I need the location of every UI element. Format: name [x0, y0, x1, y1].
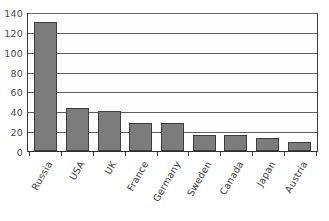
y-axis-tick-label: 20 [11, 128, 24, 137]
x-axis-tick [125, 152, 126, 156]
bar-slot [220, 13, 252, 151]
bar-slot [93, 13, 125, 151]
x-axis-label-russia: Russia [29, 159, 54, 192]
y-axis-tick-label: 0 [17, 148, 23, 157]
x-axis-tick [157, 152, 158, 156]
y-axis: 020406080100120140 [0, 0, 26, 221]
bar-canada [224, 135, 247, 151]
x-axis-label-sweden: Sweden [185, 159, 214, 198]
bar-slot [30, 13, 62, 151]
x-label-slot: Japan [252, 157, 284, 221]
bar-slot [283, 13, 315, 151]
x-axis-tick [316, 152, 317, 156]
x-axis-tick [252, 152, 253, 156]
plot-area [27, 13, 318, 152]
bar-series [28, 13, 317, 151]
x-axis-tick [61, 152, 62, 156]
x-axis-tick [188, 152, 189, 156]
bar-slot [125, 13, 157, 151]
x-axis-label-france: France [124, 159, 150, 193]
x-axis-tick [93, 152, 94, 156]
x-label-slot: Canada [220, 157, 252, 221]
x-label-slot: Sweden [188, 157, 220, 221]
x-axis-label-austria: Austria [283, 159, 310, 195]
x-label-slot: Russia [29, 157, 61, 221]
x-label-slot: France [125, 157, 157, 221]
y-axis-tick-label: 80 [11, 68, 24, 77]
x-label-slot: UK [93, 157, 125, 221]
x-axis-label-usa: USA [67, 159, 87, 182]
bar-slot [188, 13, 220, 151]
y-axis-tick-label: 40 [11, 108, 24, 117]
y-axis-tick-label: 140 [4, 9, 23, 18]
x-label-slot: USA [61, 157, 93, 221]
bar-slot [157, 13, 189, 151]
x-axis-tick [220, 152, 221, 156]
x-axis-tick [284, 152, 285, 156]
bar-usa [66, 108, 89, 151]
x-label-slot: Germany [157, 157, 189, 221]
bar-chart: 020406080100120140 RussiaUSAUKFranceGerm… [0, 0, 329, 221]
bar-germany [161, 123, 184, 151]
y-axis-tick-label: 120 [4, 28, 23, 37]
y-axis-tick-label: 60 [11, 88, 24, 97]
bar-sweden [193, 135, 216, 151]
x-axis-tick [29, 152, 30, 156]
bar-russia [34, 22, 57, 151]
x-axis-label-canada: Canada [218, 159, 246, 197]
y-axis-tick-label: 100 [4, 48, 23, 57]
bar-uk [98, 111, 121, 151]
x-axis-labels: RussiaUSAUKFranceGermanySwedenCanadaJapa… [27, 157, 318, 221]
bar-slot [252, 13, 284, 151]
bar-france [129, 123, 152, 151]
bar-slot [62, 13, 94, 151]
bar-japan [256, 138, 279, 151]
x-axis-label-uk: UK [102, 159, 118, 176]
bar-austria [288, 142, 311, 151]
x-label-slot: Austria [284, 157, 316, 221]
x-axis-label-japan: Japan [254, 159, 277, 188]
